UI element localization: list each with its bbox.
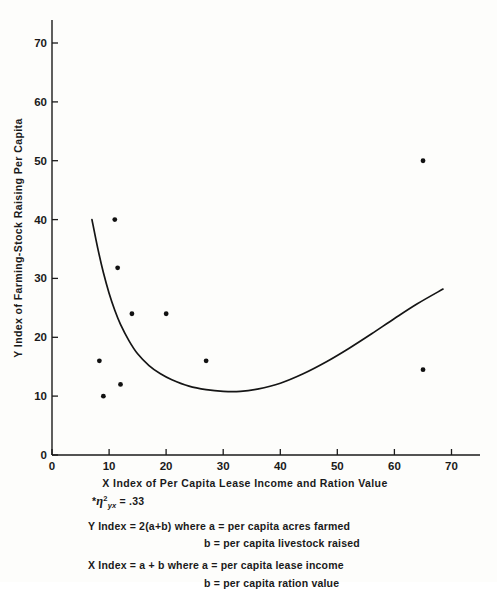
data-point [101, 394, 106, 399]
y-tick-label-50: 50 [34, 155, 47, 167]
y-axis-tick-labels: 0 10 20 30 40 50 60 70 [34, 37, 47, 461]
fitted-regression-curve [92, 220, 443, 392]
x-axis-ticks [52, 449, 452, 455]
eta-value: = .33 [120, 495, 145, 507]
y-tick-label-60: 60 [34, 96, 47, 108]
eta-subscript: yx [108, 501, 117, 510]
data-point [164, 311, 169, 316]
y-tick-label-0: 0 [41, 449, 47, 461]
y-index-formula-continued: b = per capita livestock raised [88, 536, 488, 551]
x-tick-label-50: 50 [331, 460, 344, 472]
x-tick-label-20: 20 [160, 460, 173, 472]
y-tick-label-70: 70 [34, 37, 47, 49]
x-axis-title: X Index of Per Capita Lease Income and R… [102, 477, 387, 489]
x-tick-label-40: 40 [274, 460, 287, 472]
y-tick-label-40: 40 [34, 214, 47, 226]
data-point [118, 382, 123, 387]
data-point [421, 367, 426, 372]
x-index-formula: X Index = a + b where a = per capita lea… [88, 558, 488, 573]
x-tick-label-70: 70 [445, 460, 458, 472]
y-tick-label-30: 30 [34, 272, 47, 284]
y-index-formula: Y Index = 2(a+b) where a = per capita ac… [88, 519, 488, 534]
data-point [204, 358, 209, 363]
y-axis-ticks [52, 43, 58, 455]
figure-caption: *η2yx = .33 Y Index = 2(a+b) where a = p… [88, 492, 488, 593]
eta-squared-annotation: *η2yx = .33 [88, 492, 488, 512]
x-tick-label-30: 30 [217, 460, 230, 472]
data-point [115, 265, 120, 270]
y-tick-label-10: 10 [34, 390, 47, 402]
data-point [421, 158, 426, 163]
x-tick-label-60: 60 [388, 460, 401, 472]
data-point [112, 217, 117, 222]
x-axis-tick-labels: 0 10 20 30 40 50 60 70 [49, 460, 458, 472]
x-tick-label-0: 0 [49, 460, 55, 472]
data-point [130, 311, 135, 316]
x-tick-label-10: 10 [103, 460, 116, 472]
y-tick-label-20: 20 [34, 331, 47, 343]
y-axis-title: Y Index of Farming-Stock Raising Per Cap… [12, 118, 24, 357]
data-point [97, 358, 102, 363]
x-index-formula-continued: b = per capita ration value [88, 576, 488, 591]
